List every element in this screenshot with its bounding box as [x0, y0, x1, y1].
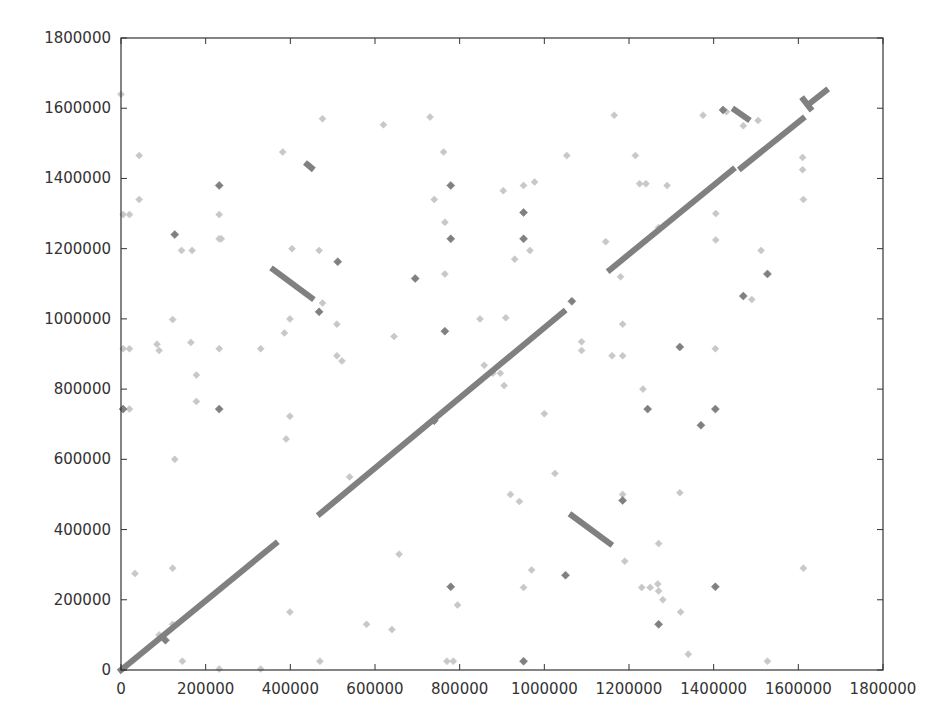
weak-match-point — [755, 117, 762, 124]
strong-match-point — [215, 181, 223, 189]
weak-match-point — [289, 245, 296, 252]
weak-match-point — [391, 333, 398, 340]
weak-match-point — [283, 435, 290, 442]
weak-match-point — [799, 154, 806, 161]
weak-match-point — [758, 247, 765, 254]
strong-match-point — [562, 571, 570, 579]
strong-match-point — [334, 258, 342, 266]
weak-match-point — [156, 347, 163, 354]
weak-match-point — [621, 558, 628, 565]
weak-match-point — [179, 658, 186, 665]
weak-match-point — [611, 112, 618, 119]
weak-match-point — [319, 300, 326, 307]
weak-match-point — [431, 196, 438, 203]
weak-match-point — [441, 219, 448, 226]
weak-match-point — [541, 410, 548, 417]
weak-match-point — [286, 315, 293, 322]
weak-match-point — [516, 498, 523, 505]
strong-match-point — [441, 327, 449, 335]
strong-match-point — [697, 421, 705, 429]
weak-match-point — [136, 152, 143, 159]
x-tick-label: 1800000 — [850, 680, 917, 698]
weak-match-point — [441, 270, 448, 277]
weak-match-point — [655, 540, 662, 547]
weak-match-point — [169, 316, 176, 323]
x-tick-label: 200000 — [177, 680, 234, 698]
strong-match-point — [411, 275, 419, 283]
strong-match-point — [711, 405, 719, 413]
y-tick-label: 0 — [101, 661, 111, 679]
weak-match-point — [153, 341, 160, 348]
weak-match-point — [638, 584, 645, 591]
weak-match-point — [216, 665, 223, 672]
strong-match-point — [171, 231, 179, 239]
strong-match-point — [676, 343, 684, 351]
weak-match-point — [551, 470, 558, 477]
weak-match-point — [609, 352, 616, 359]
weak-match-point — [748, 296, 755, 303]
weak-match-point — [281, 329, 288, 336]
weak-match-point — [563, 152, 570, 159]
y-tick-label: 1200000 — [44, 240, 111, 258]
weak-match-point — [333, 321, 340, 328]
strong-match-point — [619, 496, 627, 504]
weak-match-point — [632, 152, 639, 159]
weak-match-point — [642, 180, 649, 187]
weak-match-point — [319, 115, 326, 122]
weak-match-point — [700, 112, 707, 119]
x-tick-label: 1400000 — [680, 680, 747, 698]
weak-match-point — [664, 182, 671, 189]
weak-match-point — [440, 149, 447, 156]
weak-match-point — [507, 491, 514, 498]
weak-match-point — [520, 584, 527, 591]
strong-match-points — [119, 106, 771, 665]
weak-match-point — [216, 211, 223, 218]
weak-match-point — [655, 588, 662, 595]
x-tick-label: 1600000 — [765, 680, 832, 698]
weak-match-point — [216, 345, 223, 352]
dot-plot-chart: 0200000400000600000800000100000012000001… — [0, 0, 945, 728]
weak-match-point — [450, 658, 457, 665]
weak-match-point — [712, 345, 719, 352]
weak-match-point — [578, 338, 585, 345]
weak-match-point — [500, 187, 507, 194]
forward-alignment-segment — [741, 119, 802, 168]
weak-match-point — [169, 565, 176, 572]
forward-alignment-segment — [610, 170, 733, 270]
weak-match-point — [800, 565, 807, 572]
weak-match-point — [639, 386, 646, 393]
weak-match-point — [531, 178, 538, 185]
weak-match-point — [396, 551, 403, 558]
strong-match-point — [447, 235, 455, 243]
strong-match-point — [520, 209, 528, 217]
strong-match-point — [520, 657, 528, 665]
weak-match-point — [676, 489, 683, 496]
strong-match-point — [739, 292, 747, 300]
weak-match-point — [501, 382, 508, 389]
forward-alignment-segment — [121, 544, 276, 670]
reverse-alignment-segment — [572, 516, 610, 544]
weak-match-point — [388, 626, 395, 633]
weak-match-point — [427, 114, 434, 121]
weak-match-point — [380, 121, 387, 128]
y-tick-label: 800000 — [54, 380, 111, 398]
weak-match-point — [619, 321, 626, 328]
strong-match-point — [763, 270, 771, 278]
weak-match-point — [178, 247, 185, 254]
weak-match-point — [131, 570, 138, 577]
weak-match-point — [677, 609, 684, 616]
weak-match-point — [619, 352, 626, 359]
strong-match-point — [520, 235, 528, 243]
x-tick-label: 1200000 — [596, 680, 663, 698]
weak-match-point — [286, 609, 293, 616]
weak-match-point — [279, 149, 286, 156]
weak-match-point — [647, 584, 654, 591]
weak-match-point — [193, 372, 200, 379]
y-tick-label: 1000000 — [44, 310, 111, 328]
weak-match-point — [526, 247, 533, 254]
weak-match-point — [187, 339, 194, 346]
y-tick-label: 200000 — [54, 591, 111, 609]
weak-match-point — [602, 238, 609, 245]
weak-match-point — [712, 236, 719, 243]
weak-match-point — [502, 314, 509, 321]
